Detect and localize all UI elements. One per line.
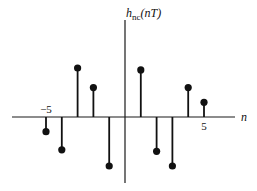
x-axis-label: n	[241, 110, 247, 124]
stem-marker	[106, 162, 113, 169]
stem-marker	[74, 64, 81, 71]
stem-marker	[169, 162, 176, 169]
stem-marker	[90, 84, 97, 91]
stem-marker	[153, 148, 160, 155]
stem-marker	[137, 66, 144, 73]
y-axis-label: hnc(nT)	[126, 6, 161, 22]
x-tick-label: 5	[201, 120, 207, 132]
stem-plot: −55 hnc(nT) n	[0, 0, 257, 191]
stem-marker	[42, 128, 49, 135]
stem-marker	[185, 84, 192, 91]
x-tick-label: −5	[40, 103, 52, 115]
stem-marker	[200, 99, 207, 106]
stem-marker	[58, 146, 65, 153]
